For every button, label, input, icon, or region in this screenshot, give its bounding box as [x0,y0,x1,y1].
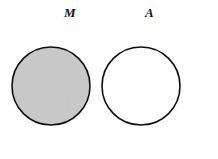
venn-diagram-canvas [0,0,218,159]
venn-diagram-figure: M A [0,0,218,159]
set-label-m: M [64,6,76,19]
set-label-a: A [145,6,154,19]
